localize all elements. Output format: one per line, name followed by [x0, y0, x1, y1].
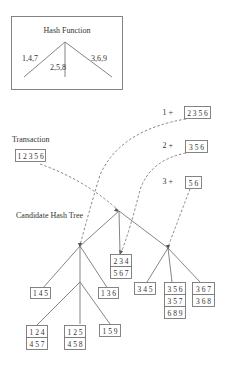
branch-right-label: 3,6,9: [91, 54, 107, 63]
prefix-1: 1 + 2 3 5 6: [162, 107, 210, 119]
svg-text:1 2 4: 1 2 4: [30, 328, 45, 337]
svg-text:3 5 7: 3 5 7: [168, 297, 183, 306]
svg-text:3 6 7: 3 6 7: [196, 285, 211, 294]
svg-text:3 +: 3 +: [162, 177, 173, 186]
transaction-label: Transaction: [12, 135, 49, 144]
svg-text:5 6 7: 5 6 7: [114, 269, 129, 278]
branch-middle-label: 2,5,8: [50, 63, 66, 72]
leaf-345: 3 4 5: [135, 283, 156, 295]
hash-function-title: Hash Function: [44, 26, 91, 35]
leaf-145: 1 4 5: [31, 288, 51, 299]
svg-text:3 6 8: 3 6 8: [196, 297, 211, 306]
svg-text:3 5 6: 3 5 6: [168, 285, 183, 294]
svg-text:6 8 9: 6 8 9: [168, 309, 183, 318]
leaf-136: 1 3 6: [99, 288, 119, 299]
svg-text:2 +: 2 +: [162, 141, 173, 150]
svg-text:1 4 5: 1 4 5: [33, 289, 48, 298]
branch-left-label: 1,4,7: [22, 54, 38, 63]
leaf-125: 1 2 5 4 5 8: [65, 326, 86, 350]
leaf-367: 3 6 7 3 6 8: [193, 283, 215, 307]
svg-text:1 5 9: 1 5 9: [103, 327, 118, 336]
transaction-items: 1 2 3 5 6: [17, 152, 44, 161]
svg-text:3 4 5: 3 4 5: [138, 285, 153, 294]
prefix-3: 3 + 5 6: [162, 177, 201, 189]
hash-tree-diagram: Hash Function 1,4,7 2,5,8 3,6,9 1 + 2 3 …: [0, 0, 228, 369]
leaf-356: 3 5 6 3 5 7 6 8 9: [165, 283, 186, 319]
svg-text:4 5 7: 4 5 7: [30, 340, 45, 349]
svg-text:4 5 8: 4 5 8: [68, 340, 83, 349]
leaf-mid: 2 3 4 5 6 7: [111, 255, 132, 279]
svg-text:1 3 6: 1 3 6: [101, 289, 116, 298]
leaf-159: 1 5 9: [100, 325, 121, 337]
dashed-arrows: [40, 119, 190, 255]
tree-label: Candidate Hash Tree: [16, 211, 84, 220]
svg-text:2 3 4: 2 3 4: [114, 257, 129, 266]
svg-text:1 2 5: 1 2 5: [68, 328, 83, 337]
prefix-2: 2 + 3 5 6: [162, 141, 207, 153]
svg-text:2 3 5 6: 2 3 5 6: [187, 109, 208, 118]
transaction: Transaction 1 2 3 5 6: [12, 135, 49, 162]
leaf-124: 1 2 4 4 5 7: [27, 326, 48, 350]
svg-text:1 +: 1 +: [162, 108, 173, 117]
hash-function-panel: Hash Function 1,4,7 2,5,8 3,6,9: [12, 17, 123, 90]
svg-text:3 5 6: 3 5 6: [189, 143, 204, 152]
svg-text:5 6: 5 6: [189, 179, 199, 188]
